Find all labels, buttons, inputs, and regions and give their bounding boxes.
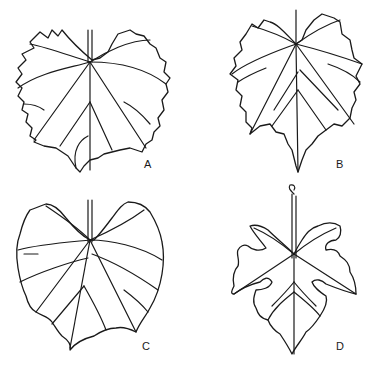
panel-label-d: D [336, 340, 344, 352]
leaf-panel-d: D [190, 182, 377, 365]
panel-label-a: A [144, 158, 151, 170]
leaf-c-drawing [0, 182, 190, 365]
leaf-a-drawing [0, 0, 190, 182]
panel-label-c: C [142, 340, 150, 352]
panel-label-b: B [336, 158, 343, 170]
leaf-b-drawing [190, 0, 377, 182]
leaf-panel-c: C [0, 182, 190, 365]
leaf-d-drawing [190, 182, 377, 365]
leaf-panel-b: B [190, 0, 377, 182]
leaf-panel-a: A [0, 0, 190, 182]
